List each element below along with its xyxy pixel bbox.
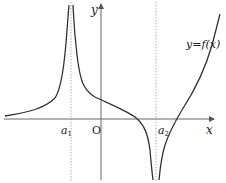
- asymptote-label-a2: a2: [158, 124, 169, 138]
- function-graph: y x O y=f(x) a1 a2: [0, 0, 226, 183]
- asymptote-label-a1: a1: [61, 124, 72, 138]
- curve-label: y=f(x): [185, 38, 220, 51]
- x-axis-label: x: [206, 123, 213, 137]
- y-axis-label: y: [90, 3, 98, 17]
- curve-middle-branch: [73, 5, 153, 180]
- origin-label: O: [92, 124, 101, 137]
- curve-left-branch: [5, 5, 69, 116]
